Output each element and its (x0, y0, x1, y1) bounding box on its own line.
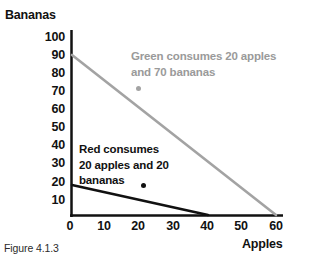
plot-area (0, 0, 316, 261)
green-annotation-label: Green consumes 20 apples and 70 bananas (131, 49, 276, 80)
red-annotation-label: Red consumes 20 apples and 20 bananas (79, 142, 169, 189)
green-data-point (136, 86, 141, 91)
figure-container: Bananas 100 90 80 70 60 50 40 30 20 10 0… (0, 0, 316, 261)
red-budget-line (72, 185, 208, 215)
red-data-point (141, 183, 146, 188)
figure-caption: Figure 4.1.3 (4, 242, 59, 254)
